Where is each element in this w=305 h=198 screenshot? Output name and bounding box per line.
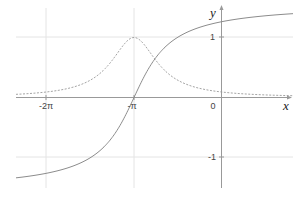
axes <box>16 7 291 188</box>
plot-area: -2π -π 0 1 -1 x y <box>0 0 305 198</box>
x-tick-zero: 0 <box>210 101 215 111</box>
x-axis-label: x <box>282 98 289 113</box>
arctan-curve <box>16 14 293 178</box>
y-axis-label: y <box>208 5 216 20</box>
y-tick-one: 1 <box>210 32 215 42</box>
x-tick-negpi: -π <box>127 101 136 111</box>
lorentzian-curve <box>16 38 293 96</box>
y-tick-negone: -1 <box>208 152 216 162</box>
y-axis-arrow-icon <box>220 5 224 10</box>
x-tick-neg2pi: -2π <box>39 101 53 111</box>
